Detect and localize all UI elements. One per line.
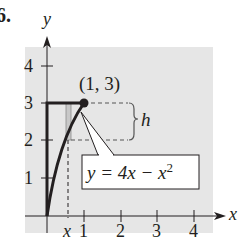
equation-exponent: 2: [166, 160, 173, 175]
y-tick-label-1: 1: [24, 169, 33, 187]
x-axis-label: x: [229, 205, 237, 223]
x-tick-label-1: 1: [79, 222, 88, 240]
equation-lhs: y = 4x − x: [87, 162, 166, 183]
y-tick-label-4: 4: [24, 57, 33, 75]
y-tick-label-3: 3: [24, 94, 33, 112]
problem-marker: 6.: [0, 5, 11, 25]
figure-canvas: [0, 0, 249, 250]
height-label: h: [141, 110, 151, 129]
y-tick-label-2: 2: [24, 131, 33, 149]
point-label: (1, 3): [79, 74, 120, 93]
y-axis-label: y: [43, 10, 51, 28]
x-marker-label: x: [63, 222, 71, 240]
x-tick-label-2: 2: [116, 222, 125, 240]
x-tick-label-4: 4: [189, 222, 198, 240]
equation-label: y = 4x − x2: [87, 161, 173, 182]
point-1-3: [80, 99, 89, 108]
x-tick-label-3: 3: [152, 222, 161, 240]
